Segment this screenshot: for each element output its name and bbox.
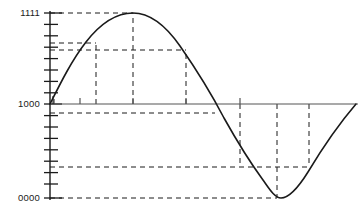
y-axis-label-top: 1111 [0, 7, 40, 18]
y-axis-label-zero: 1000 [0, 98, 40, 109]
horizontal-guide-lines [50, 13, 309, 198]
sine-wave-plot [0, 0, 364, 210]
vertical-guide-lines [54, 13, 309, 198]
chart-container: 1111 1000 0000 [0, 0, 364, 210]
sine-curve [50, 13, 356, 198]
y-axis-label-bottom: 0000 [0, 192, 40, 203]
y-axis-ticks [44, 13, 62, 198]
